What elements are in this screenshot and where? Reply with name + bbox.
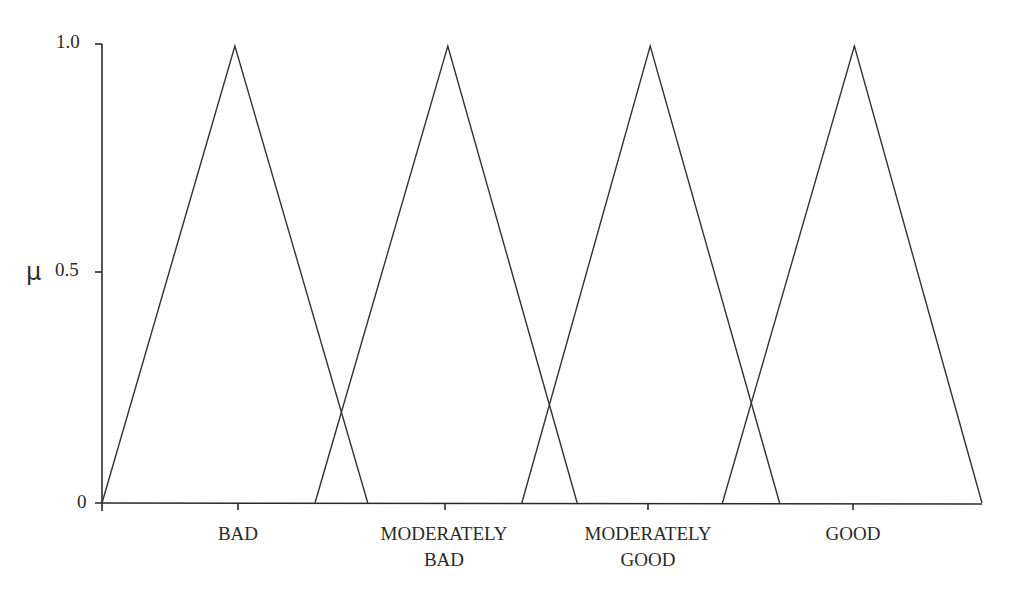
- membership-moderately-good: [522, 46, 780, 503]
- x-label-bad-line1: BAD: [218, 521, 258, 547]
- x-axis: [95, 503, 982, 504]
- y-tick-label-1: 1.0: [56, 31, 80, 53]
- y-tick-label-05: 0.5: [55, 259, 79, 281]
- x-label-moderately-bad: MODERATELY BAD: [381, 521, 508, 573]
- y-axis-label: μ: [26, 258, 41, 286]
- x-label-good: GOOD: [826, 521, 881, 547]
- x-label-good-line1: GOOD: [826, 521, 881, 547]
- membership-good: [722, 46, 982, 503]
- y-tick-label-0: 0: [77, 491, 87, 513]
- x-label-moderately-bad-line2: BAD: [381, 547, 508, 573]
- x-label-moderately-bad-line1: MODERATELY: [381, 521, 508, 547]
- axes: [95, 44, 982, 511]
- x-label-moderately-good-line1: MODERATELY: [585, 521, 712, 547]
- x-label-moderately-good: MODERATELY GOOD: [585, 521, 712, 573]
- membership-chart: [0, 0, 1010, 598]
- membership-functions: [102, 46, 982, 503]
- x-label-moderately-good-line2: GOOD: [585, 547, 712, 573]
- membership-bad: [102, 46, 368, 503]
- x-label-bad: BAD: [218, 521, 258, 547]
- membership-moderately-bad: [315, 46, 577, 503]
